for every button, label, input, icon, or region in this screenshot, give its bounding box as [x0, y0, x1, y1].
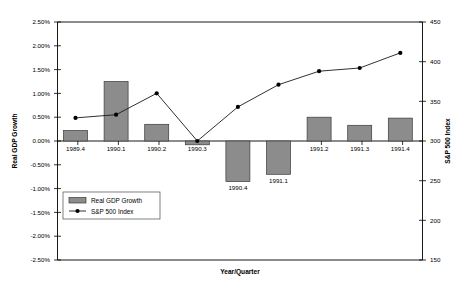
left-axis-ticks: 2.50% 2.00% 1.50% 1.00% 0.50% 0.00% -0.5…	[30, 18, 61, 263]
y2-tick-label: 200	[430, 217, 441, 224]
x-tick-label: 1990.4	[228, 184, 247, 191]
bar	[104, 82, 128, 142]
data-point-marker	[155, 91, 159, 95]
y2-tick-label: 300	[430, 137, 441, 144]
data-point-marker	[398, 51, 402, 55]
data-point-marker	[114, 113, 118, 117]
data-point-marker	[73, 116, 77, 120]
x-tick-label: 1991.4	[391, 145, 410, 152]
bar	[64, 131, 88, 142]
x-tick-label: 1991.3	[350, 145, 369, 152]
gdp-sp500-combo-chart: 2.50% 2.00% 1.50% 1.00% 0.50% 0.00% -0.5…	[0, 0, 461, 288]
y-tick-label: 1.50%	[32, 66, 50, 73]
y-tick-label: -1.00%	[30, 185, 50, 192]
data-point-marker	[358, 66, 362, 70]
bar	[348, 125, 372, 141]
legend-label: Real GDP Growth	[91, 197, 142, 204]
legend-marker-icon	[75, 209, 79, 213]
legend-label: S&P 500 Index	[91, 208, 134, 215]
y-tick-label: -0.50%	[30, 161, 50, 168]
data-point-marker	[236, 105, 240, 109]
y-tick-label: -2.50%	[30, 256, 50, 263]
chart-svg: 2.50% 2.00% 1.50% 1.00% 0.50% 0.00% -0.5…	[0, 0, 461, 288]
data-point-marker	[317, 69, 321, 73]
x-tick-label: 1990.2	[147, 145, 166, 152]
x-tick-label: 1991.2	[310, 145, 329, 152]
bar	[267, 141, 291, 174]
bar-series	[64, 82, 413, 182]
y-tick-label: -2.00%	[30, 232, 50, 239]
y-axis-title: Real GDP Growth	[11, 114, 18, 169]
bar	[226, 141, 250, 182]
y-tick-label: 2.00%	[32, 42, 50, 49]
x-axis-title: Year/Quarter	[220, 268, 260, 276]
y-tick-label: 1.00%	[32, 90, 50, 97]
y2-axis-title: S&P 500 Index	[444, 118, 451, 164]
chart-legend: Real GDP Growth S&P 500 Index	[63, 192, 160, 219]
x-tick-label: 1989.4	[66, 145, 85, 152]
y2-tick-label: 250	[430, 177, 441, 184]
legend-swatch-bar-icon	[69, 198, 86, 204]
y2-tick-label: 150	[430, 256, 441, 263]
bar	[388, 118, 412, 141]
bar	[145, 124, 169, 141]
y-tick-label: 2.50%	[32, 18, 50, 25]
x-tick-label: 1990.3	[188, 145, 207, 152]
x-tick-label: 1990.1	[107, 145, 126, 152]
bar	[307, 117, 331, 141]
data-point-marker	[195, 139, 199, 143]
x-tick-label: 1991.1	[269, 177, 288, 184]
y-tick-label: -1.50%	[30, 209, 50, 216]
y2-tick-label: 450	[430, 18, 441, 25]
y-tick-label: 0.00%	[32, 137, 50, 144]
data-point-marker	[276, 83, 280, 87]
y-tick-label: 0.50%	[32, 113, 50, 120]
y2-tick-label: 350	[430, 98, 441, 105]
y2-tick-label: 400	[430, 58, 441, 65]
